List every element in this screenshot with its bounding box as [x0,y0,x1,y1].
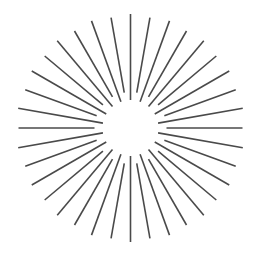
sunburst-ray [158,56,216,105]
sunburst-ray [158,108,243,123]
sunburst-canvas [0,0,260,255]
sunburst-ray [140,154,169,235]
sunburst-ray [18,133,103,148]
sunburst-ray [92,154,121,235]
sunburst-ray [158,151,216,200]
sunburst-ray [45,151,103,200]
sunburst-rays [18,14,243,242]
sunburst-ray [18,108,103,123]
sunburst-ray [158,133,243,148]
sunburst-ray [140,21,169,102]
sunburst-ray [92,21,121,102]
sunburst-icon [0,0,260,255]
sunburst-ray [45,56,103,105]
